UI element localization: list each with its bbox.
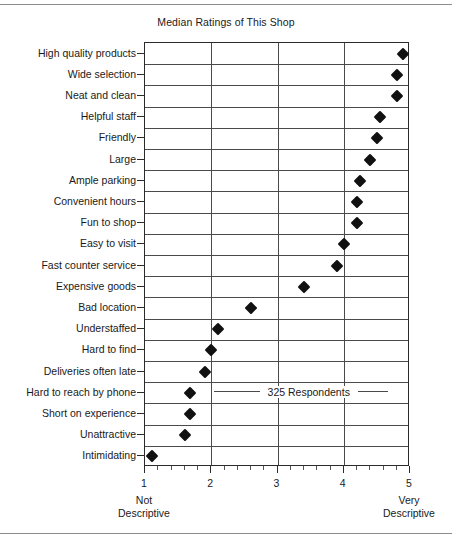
value-tick-minor bbox=[330, 466, 331, 470]
gridline-vertical bbox=[211, 43, 212, 465]
category-label: Hard to find bbox=[0, 343, 136, 355]
axis-anchor-low: NotDescriptive bbox=[118, 494, 170, 519]
gridline-horizontal bbox=[145, 107, 408, 108]
category-label: Intimidating bbox=[0, 449, 136, 461]
category-tick bbox=[137, 434, 144, 435]
data-point-marker bbox=[145, 450, 158, 463]
category-label: Neat and clean bbox=[0, 89, 136, 101]
data-point-marker bbox=[205, 344, 218, 357]
category-label: Bad location bbox=[0, 301, 136, 313]
value-tick-major bbox=[409, 466, 410, 473]
category-label: Convenient hours bbox=[0, 195, 136, 207]
category-label: Helpful staff bbox=[0, 110, 136, 122]
category-tick bbox=[137, 349, 144, 350]
category-tick bbox=[137, 159, 144, 160]
category-label: Fun to shop bbox=[0, 216, 136, 228]
category-tick bbox=[137, 413, 144, 414]
value-tick-label: 4 bbox=[340, 477, 346, 489]
gridline-horizontal bbox=[145, 319, 408, 320]
gridline-horizontal bbox=[145, 425, 408, 426]
gridline-horizontal bbox=[145, 191, 408, 192]
value-tick-minor bbox=[369, 466, 370, 470]
data-point-marker bbox=[245, 302, 258, 315]
category-tick bbox=[137, 265, 144, 266]
gridline-vertical bbox=[278, 43, 279, 465]
value-tick-minor bbox=[157, 466, 158, 470]
value-tick-minor bbox=[224, 466, 225, 470]
data-point-marker bbox=[184, 408, 197, 421]
category-label: Easy to visit bbox=[0, 237, 136, 249]
value-tick-label: 5 bbox=[406, 477, 412, 489]
gridline-horizontal bbox=[145, 276, 408, 277]
data-point-marker bbox=[390, 90, 403, 103]
category-tick bbox=[137, 455, 144, 456]
gridline-vertical bbox=[344, 43, 345, 465]
value-tick-minor bbox=[263, 466, 264, 470]
data-point-marker bbox=[198, 365, 211, 378]
category-tick bbox=[137, 201, 144, 202]
data-point-marker bbox=[298, 280, 311, 293]
category-tick bbox=[137, 222, 144, 223]
axis-anchor-high-line1: Very bbox=[383, 494, 435, 507]
plot-area bbox=[144, 42, 409, 466]
data-point-marker bbox=[371, 132, 384, 145]
category-label: Hard to reach by phone bbox=[0, 386, 136, 398]
value-tick-minor bbox=[356, 466, 357, 470]
category-tick bbox=[137, 307, 144, 308]
value-tick-minor bbox=[383, 466, 384, 470]
category-tick bbox=[137, 371, 144, 372]
category-tick bbox=[137, 328, 144, 329]
gridline-horizontal bbox=[145, 170, 408, 171]
value-tick-minor bbox=[197, 466, 198, 470]
category-tick bbox=[137, 243, 144, 244]
value-tick-label: 1 bbox=[141, 477, 147, 489]
value-tick-minor bbox=[396, 466, 397, 470]
gridline-horizontal bbox=[145, 234, 408, 235]
axis-anchor-low-line2: Descriptive bbox=[118, 507, 170, 520]
data-point-marker bbox=[178, 429, 191, 442]
value-tick-minor bbox=[250, 466, 251, 470]
value-axis: 12345NotDescriptiveVeryDescriptive bbox=[0, 0, 452, 70]
category-tick bbox=[137, 286, 144, 287]
gridline-horizontal bbox=[145, 446, 408, 447]
data-point-marker bbox=[184, 386, 197, 399]
data-point-marker bbox=[364, 153, 377, 166]
category-tick bbox=[137, 74, 144, 75]
category-tick bbox=[137, 137, 144, 138]
gridline-horizontal bbox=[145, 85, 408, 86]
axis-anchor-high-line2: Descriptive bbox=[383, 507, 435, 520]
data-point-marker bbox=[331, 259, 344, 272]
value-tick-major bbox=[210, 466, 211, 473]
value-tick-major bbox=[277, 466, 278, 473]
gridline-horizontal bbox=[145, 403, 408, 404]
category-label: Short on experience bbox=[0, 407, 136, 419]
category-label: Large bbox=[0, 153, 136, 165]
value-tick-minor bbox=[316, 466, 317, 470]
value-tick-minor bbox=[237, 466, 238, 470]
category-label: Unattractive bbox=[0, 428, 136, 440]
gridline-horizontal bbox=[145, 255, 408, 256]
data-point-marker bbox=[390, 68, 403, 81]
category-tick bbox=[137, 95, 144, 96]
value-tick-minor bbox=[184, 466, 185, 470]
value-tick-minor bbox=[171, 466, 172, 470]
gridline-horizontal bbox=[145, 128, 408, 129]
value-tick-minor bbox=[290, 466, 291, 470]
gridline-horizontal bbox=[145, 382, 408, 383]
gridline-horizontal bbox=[145, 297, 408, 298]
value-tick-minor bbox=[303, 466, 304, 470]
category-label: Friendly bbox=[0, 131, 136, 143]
data-point-marker bbox=[354, 174, 367, 187]
category-label: Understaffed bbox=[0, 322, 136, 334]
category-label: Fast counter service bbox=[0, 259, 136, 271]
value-tick-label: 2 bbox=[207, 477, 213, 489]
value-tick-major bbox=[343, 466, 344, 473]
data-point-marker bbox=[351, 196, 364, 209]
gridline-horizontal bbox=[145, 340, 408, 341]
gridline-horizontal bbox=[145, 361, 408, 362]
data-point-marker bbox=[351, 217, 364, 230]
value-tick-major bbox=[144, 466, 145, 473]
page-rule-bottom bbox=[0, 533, 452, 534]
gridline-horizontal bbox=[145, 213, 408, 214]
gridline-horizontal bbox=[145, 149, 408, 150]
